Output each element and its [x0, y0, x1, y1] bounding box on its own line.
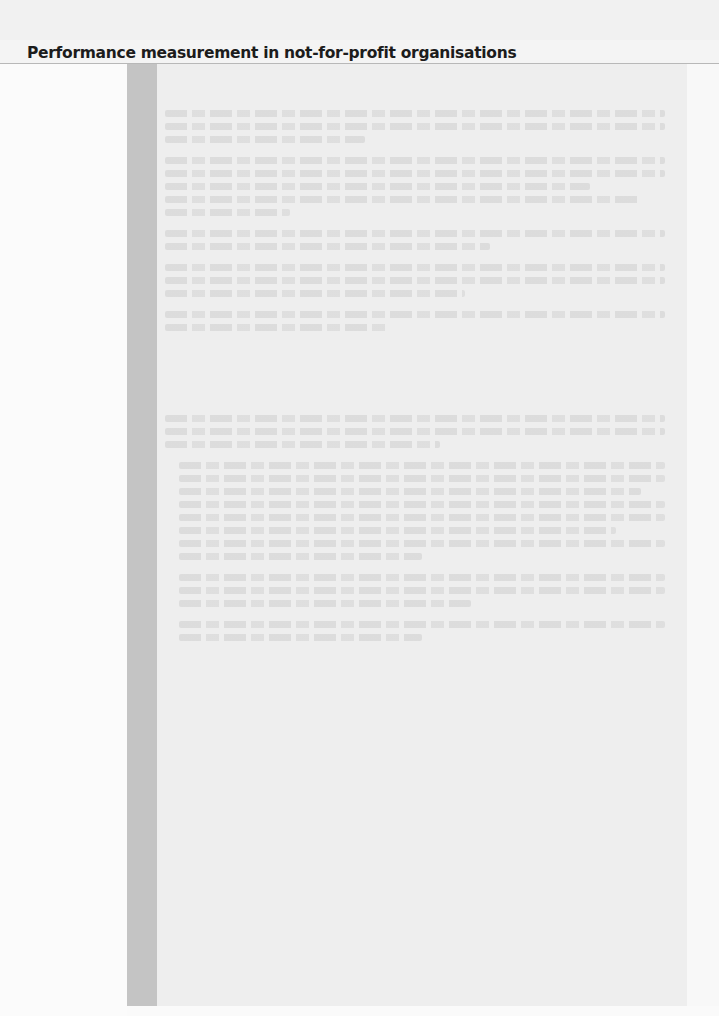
faded-paragraph	[165, 230, 677, 250]
running-head: Performance measurement in not-for-profi…	[27, 44, 516, 62]
left-margin	[0, 64, 127, 1016]
faded-paragraph	[179, 621, 677, 641]
faded-text-line	[179, 475, 665, 482]
faded-text-line	[165, 324, 390, 331]
faded-text-line	[165, 123, 665, 130]
faded-text-line	[179, 514, 665, 521]
faded-text-line	[179, 621, 665, 628]
box-content	[165, 86, 677, 655]
faded-text-line	[165, 290, 465, 297]
faded-text-line	[165, 415, 665, 422]
box-section	[165, 86, 677, 331]
box-section	[165, 391, 677, 641]
faded-text-line	[165, 428, 665, 435]
faded-text-line	[179, 574, 665, 581]
faded-text-line	[179, 634, 422, 641]
faded-paragraph	[165, 415, 677, 448]
section-heading	[165, 391, 677, 405]
faded-text-line	[165, 230, 665, 237]
faded-text-line	[165, 277, 665, 284]
box-side-bar	[127, 64, 157, 1006]
shaded-box	[127, 64, 687, 1006]
faded-text-line	[165, 441, 440, 448]
faded-text-line	[179, 587, 665, 594]
faded-text-line	[165, 170, 665, 177]
faded-text-line	[179, 527, 616, 534]
faded-text-line	[165, 264, 665, 271]
faded-text-line	[165, 209, 290, 216]
faded-text-line	[165, 183, 590, 190]
faded-paragraph	[179, 462, 677, 560]
bottom-strip	[127, 1006, 719, 1016]
top-band	[0, 0, 719, 40]
faded-paragraph	[165, 110, 677, 143]
faded-paragraph	[165, 264, 677, 297]
faded-text-line	[179, 553, 422, 560]
faded-paragraph	[165, 311, 677, 331]
faded-text-line	[179, 501, 665, 508]
faded-text-line	[165, 243, 490, 250]
faded-text-line	[179, 488, 641, 495]
faded-paragraph	[165, 157, 677, 216]
right-margin	[687, 64, 719, 1016]
faded-text-line	[179, 462, 665, 469]
faded-text-line	[165, 136, 365, 143]
faded-text-line	[179, 540, 665, 547]
section-heading	[165, 86, 677, 100]
faded-text-line	[165, 157, 665, 164]
faded-text-line	[179, 600, 471, 607]
faded-text-line	[165, 311, 665, 318]
faded-paragraph	[179, 574, 677, 607]
faded-text-line	[165, 196, 640, 203]
faded-text-line	[165, 110, 665, 117]
